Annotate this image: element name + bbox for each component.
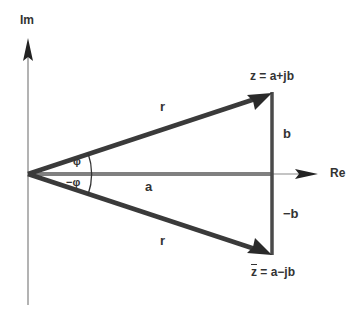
diagram-canvas (0, 0, 362, 318)
z-label: z = a+jb (250, 70, 294, 82)
imaginary-axis-label: Im (20, 14, 34, 26)
complex-plane-diagram: Im Re z = a+jb r z = a−jb r a b −b φ −φ (0, 0, 362, 318)
imag-negative-label: −b (283, 207, 299, 220)
vector-z (28, 93, 272, 174)
real-part-label: a (145, 180, 152, 193)
z-magnitude-label: r (160, 100, 165, 113)
conjugate-label: z = a−jb (251, 266, 295, 278)
conjugate-magnitude-label: r (160, 234, 165, 247)
angle-negative-label: −φ (66, 177, 80, 188)
real-axis-label: Re (330, 167, 345, 179)
conjugate-expression: = a−jb (257, 265, 295, 279)
angle-positive-label: φ (73, 156, 81, 167)
imag-positive-label: b (283, 127, 291, 140)
